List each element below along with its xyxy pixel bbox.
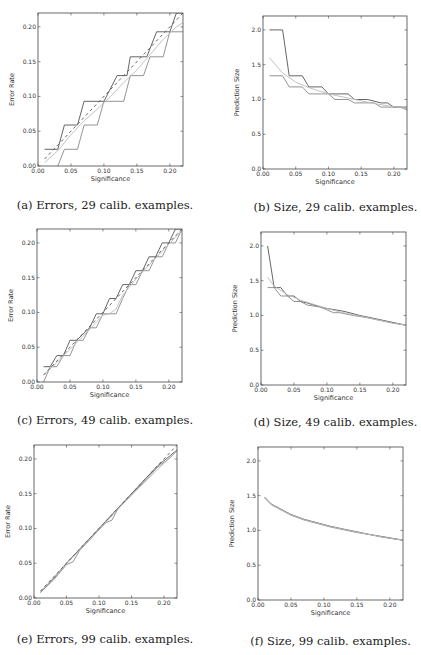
- series-expected: [45, 13, 183, 159]
- x-tick-label: 0.20: [387, 170, 401, 177]
- x-tick-label: 0.05: [287, 386, 301, 393]
- series-lower: [268, 288, 406, 326]
- y-tick-label: 1.0: [251, 95, 261, 102]
- y-tick-label: 0.0: [246, 596, 256, 603]
- y-tick-label: 0.10: [19, 524, 33, 531]
- y-tick-label: 0.5: [246, 561, 256, 568]
- y-tick-label: 0.20: [19, 455, 33, 462]
- caption-d: (d) Size, 49 calib. examples.: [250, 415, 421, 429]
- series-upper: [44, 229, 182, 367]
- x-tick-label: 0.10: [320, 386, 334, 393]
- y-tick-label: 1.0: [249, 311, 259, 318]
- x-tick-label: 0.20: [383, 601, 397, 608]
- y-tick-label: 0.20: [23, 23, 37, 30]
- y-tick-label: 1.5: [246, 492, 256, 499]
- chart-panel-d: 0.000.050.100.150.200.00.51.01.52.0Signi…: [210, 215, 421, 435]
- y-tick-label: 0.00: [19, 594, 33, 601]
- x-tick-label: 0.15: [355, 170, 369, 177]
- chart-d-svg: 0.000.050.100.150.200.00.51.01.52.0Signi…: [210, 215, 421, 435]
- series-lower: [265, 498, 403, 540]
- y-tick-label: 0.20: [22, 239, 36, 246]
- caption-a: (a) Errors, 29 calib. examples.: [0, 198, 210, 212]
- y-tick-label: 0.05: [23, 127, 37, 134]
- chart-b-svg: 0.000.050.100.150.200.00.51.01.52.0Signi…: [210, 0, 421, 215]
- y-tick-label: 0.05: [22, 343, 36, 350]
- series-upper: [270, 30, 408, 107]
- x-tick-label: 0.05: [63, 383, 77, 390]
- chart-panel-c: 0.000.050.100.150.200.000.050.100.150.20…: [0, 215, 210, 435]
- y-tick-label: 1.0: [246, 526, 256, 533]
- series-lower: [58, 32, 183, 166]
- chart-f-svg: 0.000.050.100.150.200.00.51.01.52.0Signi…: [210, 435, 421, 655]
- y-axis-label: Error Rate: [8, 73, 16, 106]
- y-tick-label: 2.0: [246, 457, 256, 464]
- series-upper: [268, 246, 406, 325]
- y-axis-label: Prediction Size: [231, 285, 239, 333]
- x-tick-label: 0.10: [96, 383, 110, 390]
- series-lower: [41, 451, 178, 593]
- y-tick-label: 0.15: [23, 58, 37, 65]
- caption-b: (b) Size, 29 calib. examples.: [250, 200, 421, 214]
- chart-c-svg: 0.000.050.100.150.200.000.050.100.150.20…: [0, 215, 210, 435]
- x-tick-label: 0.05: [289, 170, 303, 177]
- chart-e-svg: 0.000.050.100.150.200.000.050.100.150.20…: [0, 435, 210, 655]
- x-tick-label: 0.10: [92, 599, 106, 606]
- series-smooth: [265, 497, 403, 540]
- x-tick-label: 0.05: [64, 167, 78, 174]
- series-smooth: [268, 277, 406, 325]
- x-tick-label: 0.20: [163, 167, 177, 174]
- caption-e: (e) Errors, 99 calib. examples.: [0, 632, 210, 646]
- x-tick-label: 0.20: [157, 599, 171, 606]
- y-tick-label: 1.5: [251, 61, 261, 68]
- x-tick-label: 0.20: [386, 386, 400, 393]
- x-tick-label: 0.15: [350, 601, 364, 608]
- series-upper: [265, 497, 403, 540]
- x-tick-label: 0.15: [353, 386, 367, 393]
- y-tick-label: 0.10: [23, 92, 37, 99]
- y-tick-label: 0.10: [22, 308, 36, 315]
- chart-panel-b: 0.000.050.100.150.200.00.51.01.52.0Signi…: [210, 0, 421, 215]
- y-axis-label: Prediction Size: [233, 69, 241, 117]
- y-tick-label: 2.0: [251, 26, 261, 33]
- chart-panel-f: 0.000.050.100.150.200.00.51.01.52.0Signi…: [210, 435, 421, 655]
- y-axis-label: Error Rate: [7, 289, 15, 322]
- series-smooth: [270, 58, 408, 109]
- x-tick-label: 0.05: [284, 601, 298, 608]
- x-tick-label: 0.10: [322, 170, 336, 177]
- y-tick-label: 1.5: [249, 277, 259, 284]
- plot-frame: [263, 16, 407, 169]
- series-upper: [45, 13, 183, 149]
- x-axis-label: Significance: [311, 609, 350, 617]
- chart-panel-e: 0.000.050.100.150.200.000.050.100.150.20…: [0, 435, 210, 655]
- y-tick-label: 0.00: [23, 162, 37, 169]
- x-tick-label: 0.20: [162, 383, 176, 390]
- y-tick-label: 0.0: [251, 165, 261, 172]
- y-tick-label: 2.0: [249, 242, 259, 249]
- x-tick-label: 0.05: [60, 599, 74, 606]
- x-tick-label: 0.10: [317, 601, 331, 608]
- y-tick-label: 0.5: [249, 346, 259, 353]
- x-axis-label: Significance: [91, 175, 130, 183]
- y-tick-label: 0.15: [22, 274, 36, 281]
- x-axis-label: Significance: [315, 178, 354, 186]
- x-tick-label: 0.15: [125, 599, 139, 606]
- caption-c: (c) Errors, 49 calib. examples.: [0, 413, 210, 427]
- x-axis-label: Significance: [90, 391, 129, 399]
- series-lower: [270, 76, 408, 110]
- series-expected: [44, 229, 182, 375]
- y-axis-label: Error Rate: [4, 505, 12, 538]
- x-tick-label: 0.15: [129, 383, 143, 390]
- plot-frame: [261, 232, 406, 385]
- plot-frame: [258, 447, 403, 600]
- series-smooth: [45, 23, 183, 163]
- y-tick-label: 0.15: [19, 490, 33, 497]
- y-tick-label: 0.5: [251, 130, 261, 137]
- x-tick-label: 0.15: [130, 167, 144, 174]
- y-axis-label: Prediction Size: [228, 500, 236, 548]
- x-axis-label: Significance: [314, 394, 353, 402]
- caption-f: (f) Size, 99 calib. examples.: [240, 634, 421, 648]
- chart-a-svg: 0.000.050.100.150.200.000.050.100.150.20…: [0, 0, 210, 215]
- y-tick-label: 0.00: [22, 378, 36, 385]
- y-tick-label: 0.0: [249, 381, 259, 388]
- x-tick-label: 0.10: [97, 167, 111, 174]
